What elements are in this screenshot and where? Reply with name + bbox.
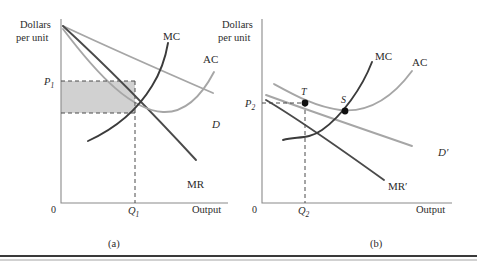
panel-a-price-label: P1	[43, 76, 54, 90]
panel-b-point-s-dot	[342, 108, 349, 115]
panel-b-point-t-dot	[302, 100, 309, 107]
panel-b-x-axis-title: Output	[416, 204, 445, 215]
panel-b-point-t-label: T	[301, 86, 308, 97]
panel-b-mc-label: MC	[375, 50, 392, 62]
panel-b-price-label: P2	[244, 98, 255, 112]
economics-figure-svg: Dollars per unit 0 Output P1 Q1 MC AC D …	[0, 0, 477, 262]
panel-b-group: Dollars per unit 0 Output P2 Q2 T S MC A…	[218, 19, 452, 250]
panel-a-y-axis-title-line1: Dollars	[20, 19, 51, 30]
panel-a-y-axis-title-line2: per unit	[16, 32, 48, 43]
figure-container: Dollars per unit 0 Output P1 Q1 MC AC D …	[0, 0, 477, 262]
panel-b-origin-label: 0	[252, 204, 257, 215]
panel-b-point-s-label: S	[341, 94, 346, 105]
panel-a-group: Dollars per unit 0 Output P1 Q1 MC AC D …	[16, 19, 228, 250]
panel-a-x-axis-title: Output	[192, 204, 221, 215]
panel-b-y-axis-title-line1: Dollars	[222, 19, 253, 30]
panel-b-caption: (b)	[370, 238, 383, 250]
panel-a-mc-label: MC	[163, 30, 180, 42]
panel-a-mr-label: MR	[187, 178, 205, 190]
panel-a-origin-label: 0	[51, 204, 56, 215]
panel-a-quantity-label: Q1	[128, 205, 139, 219]
panel-b-ac-label: AC	[412, 56, 427, 68]
panel-b-quantity-label: Q2	[298, 205, 310, 219]
panel-a-demand-label: D	[211, 118, 220, 130]
panel-a-caption: (a)	[108, 238, 120, 250]
panel-b-axes	[262, 19, 452, 203]
panel-b-y-axis-title-line2: per unit	[218, 32, 250, 43]
panel-b-mr-label: MR′	[388, 180, 408, 192]
panel-b-demand-label: D′	[437, 146, 449, 158]
panel-a-ac-label: AC	[203, 53, 218, 65]
